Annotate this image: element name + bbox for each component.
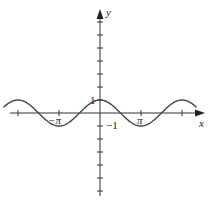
y-tick-label-neg-1: −1 xyxy=(106,119,118,131)
y-axis-label: y xyxy=(105,6,111,18)
cosine-graph: y x 1 −1 −π π xyxy=(0,0,217,204)
y-axis xyxy=(97,9,104,196)
x-axis-arrow-icon xyxy=(195,110,205,117)
x-tick-label-pi: π xyxy=(137,114,143,126)
x-axis-label: x xyxy=(198,117,204,129)
y-axis-arrow-icon xyxy=(97,9,104,19)
x-tick-label-neg-pi: −π xyxy=(48,114,61,126)
y-tick-label-1: 1 xyxy=(90,94,96,106)
